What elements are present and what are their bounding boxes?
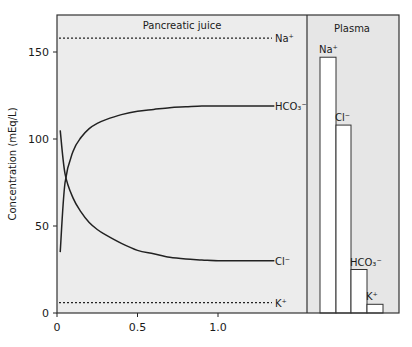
series-label: Na⁺: [275, 33, 294, 44]
x-tick-label: 1.0: [209, 321, 227, 334]
x-tick-label: 0: [54, 321, 61, 334]
series-label: K⁺: [275, 298, 287, 309]
series-label: HCO₃⁻: [275, 101, 307, 112]
plasma-bar: [320, 57, 336, 313]
plasma-bar-label: HCO₃⁻: [350, 257, 382, 268]
plasma-bar-label: Na⁺: [319, 44, 338, 55]
plasma-bar: [351, 270, 367, 314]
panel-title-plasma: Plasma: [334, 23, 370, 34]
plasma-bar: [336, 125, 351, 313]
pancreatic-juice-chart: Concentration (mEq/L)05010015000.51.0Pan…: [0, 0, 412, 347]
plasma-bar-label: Cl⁻: [335, 112, 350, 123]
juice-panel: [57, 15, 307, 313]
y-tick-label: 0: [42, 307, 49, 320]
y-tick-label: 150: [28, 46, 49, 59]
y-tick-label: 100: [28, 133, 49, 146]
y-axis-title: Concentration (mEq/L): [7, 107, 18, 220]
y-tick-label: 50: [35, 220, 49, 233]
plasma-bar-label: K⁺: [366, 291, 378, 302]
series-label: Cl⁻: [275, 256, 290, 267]
panel-title-pancreatic-juice: Pancreatic juice: [143, 20, 222, 31]
x-tick-label: 0.5: [129, 321, 147, 334]
plasma-bar: [367, 304, 383, 313]
